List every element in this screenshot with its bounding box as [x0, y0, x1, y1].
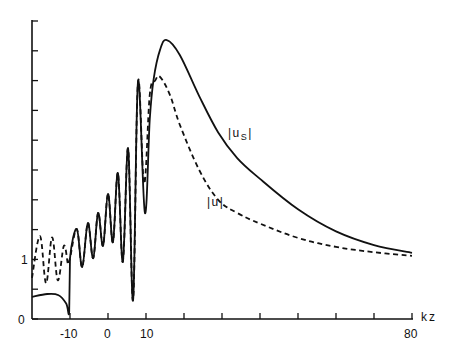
curve-label-us-subscript: S: [241, 132, 249, 142]
x-tick-label-10: 10: [140, 327, 154, 341]
x-tick-label-80: 80: [404, 327, 418, 341]
curve-label-us-end: |: [248, 126, 253, 140]
curve-label-u: |u|: [207, 195, 224, 209]
curve-label-us-main: |u: [228, 126, 241, 140]
y-tick-label-1: 1: [21, 253, 28, 267]
x-tick-label-0: 0: [104, 327, 111, 341]
curve-us: [32, 40, 412, 314]
x-tick-label-minus-10: -10: [60, 327, 78, 341]
line-chart: 0 1 -10 0 10 80 kz |uS| |u|: [0, 0, 460, 352]
curve-u: [32, 76, 412, 301]
x-axis-label: kz: [421, 310, 437, 324]
y-tick-label-0: 0: [18, 313, 25, 327]
x-axis-ticks: [70, 313, 412, 319]
curve-label-us: |uS|: [228, 126, 253, 142]
x-axis: [32, 313, 413, 319]
